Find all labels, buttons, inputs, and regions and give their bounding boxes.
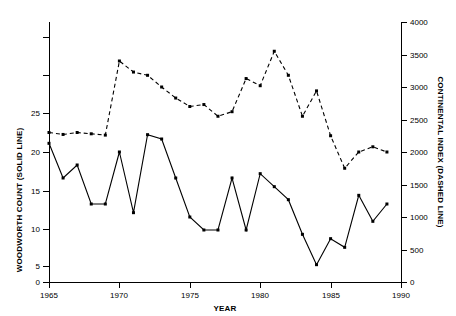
right-tick-label-1500: 1500 <box>410 181 428 190</box>
data-point-marker <box>188 216 191 219</box>
chart-container: 0 5 10 15 20 25 0 500 1000 1500 <box>0 0 456 316</box>
right-axis-ticks: 0 500 1000 1500 2000 2500 3000 3500 4000 <box>401 18 428 287</box>
data-point-marker <box>62 133 65 136</box>
data-point-marker <box>76 164 79 167</box>
right-tick-label-500: 500 <box>410 246 424 255</box>
data-point-marker <box>174 97 177 100</box>
data-point-marker <box>287 198 290 201</box>
data-point-marker <box>118 151 121 154</box>
data-point-marker <box>132 211 135 214</box>
series-woodworth-count-markers <box>48 133 389 266</box>
data-point-marker <box>76 131 79 134</box>
data-point-marker <box>160 86 163 89</box>
left-tick-label-5: 5 <box>36 262 41 271</box>
data-point-marker <box>385 151 388 154</box>
x-tick-label-1965: 1965 <box>40 291 58 300</box>
data-point-marker <box>357 194 360 197</box>
right-axis-title: CONTINENTAL INDEX (DASHED LINE) <box>436 76 445 227</box>
data-point-marker <box>329 134 332 137</box>
data-point-marker <box>104 134 107 137</box>
data-point-marker <box>301 115 304 118</box>
data-point-marker <box>216 115 219 118</box>
line-chart: 0 5 10 15 20 25 0 500 1000 1500 <box>0 0 456 316</box>
right-tick-label-2500: 2500 <box>410 116 428 125</box>
data-point-marker <box>245 77 248 80</box>
right-tick-label-4000: 4000 <box>410 18 428 27</box>
left-tick-label-10: 10 <box>31 225 40 234</box>
data-point-marker <box>371 220 374 223</box>
left-axis-title: WOODWORTH COUNT (SOLID LINE) <box>15 128 24 273</box>
data-point-marker <box>231 110 234 113</box>
left-axis-ticks: 0 5 10 15 20 25 <box>31 37 49 287</box>
data-point-marker <box>371 145 374 148</box>
left-tick-label-20: 20 <box>31 148 40 157</box>
right-tick-label-0: 0 <box>410 278 415 287</box>
right-tick-label-2000: 2000 <box>410 148 428 157</box>
data-point-marker <box>174 177 177 180</box>
x-tick-label-1970: 1970 <box>110 291 128 300</box>
data-point-marker <box>146 74 149 77</box>
data-point-marker <box>259 84 262 87</box>
data-point-marker <box>132 71 135 74</box>
data-point-marker <box>118 60 121 63</box>
data-point-marker <box>315 263 318 266</box>
x-axis-title: YEAR <box>213 304 236 313</box>
data-point-marker <box>202 229 205 232</box>
left-tick-label-25: 25 <box>31 109 40 118</box>
data-point-marker <box>301 233 304 236</box>
data-point-marker <box>357 151 360 154</box>
data-point-marker <box>146 133 149 136</box>
data-point-marker <box>273 50 276 53</box>
data-point-marker <box>90 203 93 206</box>
right-tick-label-1000: 1000 <box>410 213 428 222</box>
right-tick-label-3000: 3000 <box>410 83 428 92</box>
data-point-marker <box>216 229 219 232</box>
data-point-marker <box>273 185 276 188</box>
series-continental-index-line <box>49 51 387 168</box>
x-tick-label-1985: 1985 <box>322 291 340 300</box>
data-point-marker <box>90 132 93 135</box>
data-point-marker <box>48 131 51 134</box>
left-tick-label-15: 15 <box>31 187 40 196</box>
series-continental-index-markers <box>48 50 389 170</box>
x-tick-label-1975: 1975 <box>181 291 199 300</box>
right-tick-label-3500: 3500 <box>410 51 428 60</box>
data-point-marker <box>287 74 290 77</box>
data-point-marker <box>343 167 346 170</box>
series-woodworth-count-line <box>49 135 387 265</box>
left-tick-label-0: 0 <box>36 278 41 287</box>
data-point-marker <box>343 246 346 249</box>
x-tick-label-1980: 1980 <box>251 291 269 300</box>
data-point-marker <box>231 177 234 180</box>
data-point-marker <box>104 203 107 206</box>
data-point-marker <box>62 177 65 180</box>
data-point-marker <box>48 142 51 145</box>
data-point-marker <box>245 229 248 232</box>
data-point-marker <box>259 172 262 175</box>
data-point-marker <box>188 105 191 108</box>
data-point-marker <box>315 89 318 92</box>
data-point-marker <box>160 138 163 141</box>
data-point-marker <box>329 237 332 240</box>
x-tick-label-1990: 1990 <box>392 291 410 300</box>
data-point-marker <box>202 103 205 106</box>
data-point-marker <box>385 203 388 206</box>
x-axis-ticks: 1965 1970 1975 1980 1985 1990 <box>40 282 410 300</box>
